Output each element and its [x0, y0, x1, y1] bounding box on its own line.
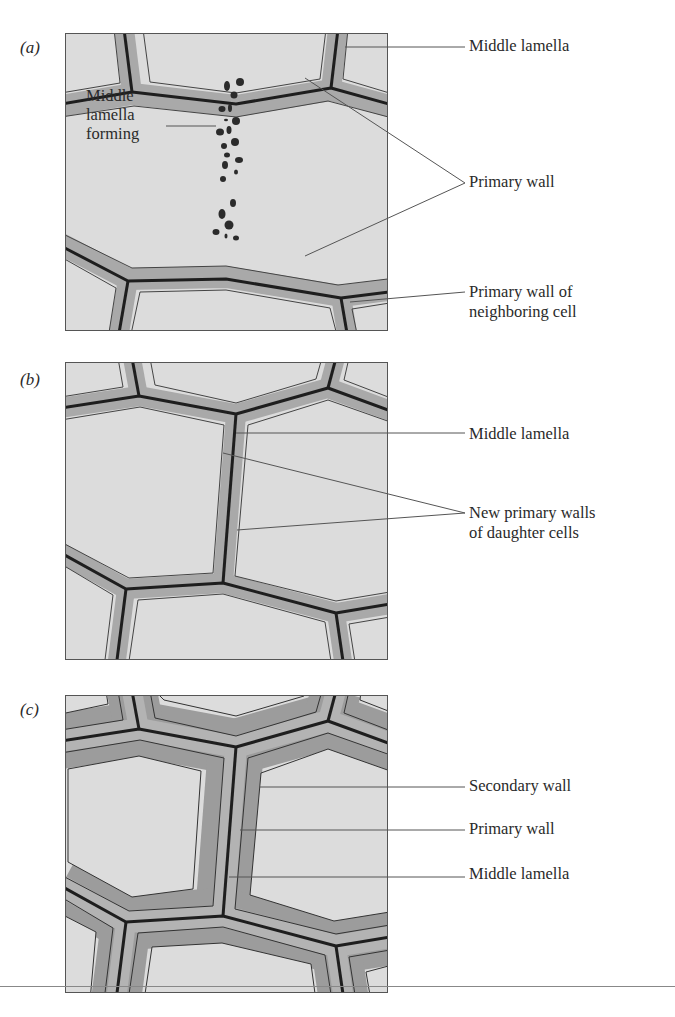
callout-a-middle-lamella: Middle lamella — [469, 36, 569, 56]
callout-c-middle-lamella: Middle lamella — [469, 864, 569, 884]
callout-b-middle-lamella: Middle lamella — [469, 424, 569, 444]
page-rule — [0, 986, 675, 987]
cell-wall-diagram-b — [66, 363, 388, 660]
panel-b-diagram — [65, 362, 388, 660]
middle-lamella-forming-label: Middle lamella forming — [86, 86, 139, 143]
panel-b-label: (b) — [20, 370, 40, 390]
callout-a-primary-wall-neighbor: Primary wall of neighboring cell — [469, 282, 577, 322]
panel-c-label: (c) — [20, 700, 39, 720]
callout-b-new-primary-walls: New primary walls of daughter cells — [469, 503, 595, 543]
cell-wall-diagram-c — [66, 696, 388, 993]
callout-a-primary-wall: Primary wall — [469, 172, 555, 192]
panel-a-label: (a) — [20, 38, 40, 58]
panel-a-diagram — [65, 33, 388, 331]
cell-wall-diagram-a — [66, 34, 388, 331]
callout-c-primary-wall: Primary wall — [469, 819, 555, 839]
callout-c-secondary-wall: Secondary wall — [469, 776, 571, 796]
panel-c-diagram — [65, 695, 388, 993]
